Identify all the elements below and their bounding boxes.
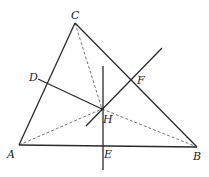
- dashed-lines: [19, 23, 197, 147]
- label-H: H: [102, 113, 113, 126]
- orthocenter-diagram: A B C D E F H: [0, 0, 209, 177]
- dashed-HB: [102, 109, 197, 147]
- label-A: A: [6, 148, 15, 161]
- side-CB: [75, 23, 197, 147]
- side-AB: [19, 145, 197, 147]
- perpendicular-F: [86, 48, 162, 126]
- label-B: B: [192, 150, 201, 163]
- label-C: C: [71, 9, 80, 22]
- label-E: E: [103, 148, 112, 161]
- dashed-AH: [19, 109, 102, 145]
- label-F: F: [136, 74, 145, 87]
- side-AC: [19, 23, 75, 145]
- label-D: D: [28, 71, 38, 84]
- point-H-dot: [101, 108, 104, 111]
- perpendicular-D: [38, 79, 102, 109]
